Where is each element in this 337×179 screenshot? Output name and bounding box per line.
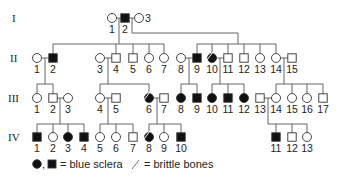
individual-number: 4	[113, 63, 119, 75]
legend-affected-female-icon	[33, 160, 42, 169]
individual-II-7: 7	[160, 54, 169, 76]
individual-number: 8	[178, 63, 184, 75]
individual-II-14: 14	[270, 54, 282, 76]
individual-IV-3: 3	[64, 133, 73, 155]
individual-II-4: 4	[112, 54, 120, 75]
individual-number: 12	[238, 103, 250, 115]
individual-number: 13	[254, 63, 266, 75]
female-icon	[303, 133, 312, 142]
individual-II-1: 1	[33, 54, 42, 76]
individual-IV-5: 5	[96, 133, 105, 155]
individual-number: 7	[161, 63, 167, 75]
individual-IV-9: 9	[160, 133, 169, 155]
individual-II-3: 3	[96, 54, 105, 76]
male-icon	[49, 94, 57, 102]
individual-number: 16	[301, 103, 313, 115]
individual-number: 2	[50, 63, 56, 75]
individual-III-13: 13	[254, 94, 266, 115]
individual-number: 15	[286, 103, 298, 115]
individual-number: 10	[206, 63, 218, 75]
individual-number: 11	[223, 63, 234, 75]
individual-number: 3	[65, 103, 71, 115]
individual-number: 5	[130, 63, 136, 75]
individual-II-6: 6	[145, 54, 154, 76]
female-icon	[49, 133, 58, 142]
individual-III-6: 6	[144, 92, 154, 115]
legend-brittle-text: = brittle bones	[144, 158, 214, 170]
individual-number: 1	[109, 23, 115, 35]
female-icon	[160, 133, 169, 142]
affected-male-icon	[193, 94, 201, 102]
individual-number: 9	[161, 142, 167, 154]
individual-III-9: 9	[193, 94, 201, 115]
individual-III-8: 8	[177, 94, 186, 116]
affected-female-icon	[208, 94, 217, 103]
individual-II-13: 13	[254, 54, 266, 76]
male-icon	[129, 133, 137, 141]
generation-label: III	[8, 92, 19, 104]
female-icon	[303, 94, 312, 103]
individual-IV-2: 2	[49, 133, 58, 155]
individual-II-5: 5	[129, 54, 137, 75]
individual-IV-10: 10	[175, 133, 187, 154]
female-icon	[96, 94, 105, 103]
pedigree-diagram: IIIIIIIV 1231234567891011121314151234567…	[0, 0, 337, 179]
individual-number: 3	[65, 142, 71, 154]
male-icon	[160, 94, 168, 102]
female-icon	[33, 54, 42, 63]
individual-II-8: 8	[177, 54, 186, 76]
individual-number: 6	[146, 63, 152, 75]
individual-number: 3	[145, 12, 151, 24]
female-icon	[96, 54, 105, 63]
individual-number: 8	[146, 142, 152, 154]
affected-male-icon	[80, 133, 88, 141]
individual-III-2: 2	[49, 94, 57, 115]
individual-number: 1	[34, 63, 40, 75]
generation-label: II	[10, 52, 18, 64]
female-icon	[145, 54, 154, 63]
generation-label: I	[12, 12, 16, 24]
female-icon	[33, 94, 42, 103]
individual-number: 15	[286, 63, 298, 75]
individual-I-2: 2	[121, 14, 129, 35]
individual-III-12: 12	[238, 94, 250, 116]
legend-slash-icon	[132, 160, 139, 169]
individual-number: 17	[317, 103, 329, 115]
individual-number: 10	[175, 142, 187, 154]
individual-III-15: 15	[286, 94, 298, 116]
male-icon	[224, 54, 232, 62]
individual-number: 12	[238, 63, 250, 75]
individual-number: 1	[34, 142, 40, 154]
individual-III-10: 10	[206, 94, 218, 116]
individual-III-3: 3	[64, 94, 73, 116]
individual-number: 2	[50, 103, 56, 115]
male-icon	[256, 94, 264, 102]
female-icon	[272, 54, 281, 63]
male-icon	[288, 54, 296, 62]
male-icon	[112, 54, 120, 62]
individual-number: 13	[301, 142, 313, 154]
individual-III-5: 5	[112, 94, 120, 115]
individual-number: 11	[271, 142, 282, 154]
affected-male-icon	[224, 94, 232, 102]
female-icon	[108, 14, 117, 23]
individual-number: 14	[270, 63, 282, 75]
individual-III-11: 11	[223, 94, 234, 115]
individual-number: 4	[81, 142, 87, 154]
individual-IV-13: 13	[301, 133, 313, 155]
individual-number: 2	[122, 23, 128, 35]
legend: , = blue sclera = brittle bones	[33, 158, 214, 170]
affected-female-icon	[64, 133, 73, 142]
individual-number: 9	[194, 103, 200, 115]
individual-number: 6	[113, 142, 119, 154]
individual-number: 14	[270, 103, 282, 115]
individual-number: 5	[97, 142, 103, 154]
individual-II-11: 11	[223, 54, 234, 75]
individual-IV-1: 1	[33, 133, 41, 154]
male-icon	[129, 54, 137, 62]
female-icon	[256, 54, 265, 63]
affected-male-icon	[272, 133, 280, 141]
individual-III-17: 17	[317, 94, 329, 115]
connector-lines	[37, 18, 323, 133]
male-icon	[240, 54, 248, 62]
